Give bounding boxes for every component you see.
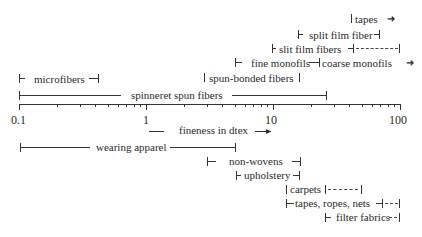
slit-end-tick [399, 44, 400, 53]
split-end-tick [379, 30, 380, 39]
axis-label-line [149, 131, 164, 132]
axis-minor-tick [80, 104, 81, 107]
upholstery-line [236, 175, 241, 176]
axis-tick-1: 1 [143, 114, 149, 126]
carpets-label: carpets [290, 183, 321, 195]
axis-minor-tick [235, 104, 236, 107]
tapes-arrow-icon: ➜ [387, 14, 395, 24]
axis-minor-tick [118, 104, 119, 107]
nonwovens-line [207, 161, 216, 162]
slit-dashed-extension [356, 48, 398, 49]
axis-minor-tick [334, 104, 335, 107]
tapesropes-label: tapes, ropes, nets [295, 197, 370, 209]
micro-end-tick [98, 74, 99, 83]
tapesropes-line [286, 203, 294, 204]
carpets-mid-tick [325, 185, 326, 194]
axis-minor-tick [311, 104, 312, 107]
micro-line-end [89, 78, 98, 79]
tapes-label: tapes [355, 13, 378, 25]
upholstery-end-tick [299, 171, 300, 180]
apparel-end-tick [235, 143, 236, 152]
fine-line-end [309, 62, 319, 63]
axis-minor-tick [19, 104, 20, 110]
axis-label: fineness in dtex [179, 124, 248, 136]
axis-minor-tick [362, 104, 363, 107]
apparel-label: wearing apparel [96, 141, 167, 153]
axis-minor-tick [222, 104, 223, 107]
apparel-line [20, 147, 90, 148]
carpets-dashed-extension [328, 189, 358, 190]
axis-minor-tick [380, 104, 381, 107]
spunbonded-end-tick [299, 73, 300, 82]
spinneret-label: spinneret spun fibers [131, 89, 223, 101]
upholstery-label: upholstery [244, 169, 290, 181]
axis-minor-tick [349, 104, 350, 107]
axis-tick-0.1: 0.1 [11, 114, 26, 126]
axis-line [19, 104, 400, 105]
axis-tick-100: 100 [389, 114, 407, 126]
tapesropes-dashed-extension [385, 203, 398, 204]
micro-label: microfibers [34, 73, 85, 85]
slit-mid-tick [353, 44, 354, 53]
axis-minor-tick [184, 104, 185, 107]
axis-arrow-icon: ▸ [266, 126, 271, 136]
axis-minor-tick [146, 104, 147, 110]
carpets-start-tick [286, 185, 287, 194]
slit-line [272, 48, 276, 49]
split-line [298, 34, 303, 35]
axis-minor-tick [95, 104, 96, 107]
axis-minor-tick [57, 104, 58, 107]
spinneret-line [19, 95, 121, 96]
filter-end-tick [399, 213, 400, 222]
nonwovens-end-tick [300, 157, 301, 166]
axis-minor-tick [388, 104, 389, 107]
axis-minor-tick [267, 104, 268, 107]
fine-line [235, 62, 242, 63]
spinneret-line-end [232, 95, 326, 96]
axis-minor-tick [126, 104, 127, 107]
axis-minor-tick [253, 104, 254, 107]
filter-label: filter fabrics [336, 211, 390, 223]
axis-minor-tick [273, 104, 274, 110]
nonwovens-line-end [292, 161, 300, 162]
fine-end-tick [319, 58, 320, 67]
tapes-start-tick [351, 14, 352, 23]
filter-dashed-extension [389, 217, 397, 218]
filter-line [325, 217, 331, 218]
axis-minor-tick [245, 104, 246, 107]
micro-line [19, 78, 25, 79]
fine-label: fine monofils [251, 57, 310, 69]
spinneret-end-tick [326, 91, 327, 100]
axis-minor-tick [394, 104, 395, 107]
spunbonded-label: spun-bonded fibers [209, 72, 294, 84]
axis-minor-tick [140, 104, 141, 107]
coarse-label: coarse monofils [322, 57, 392, 69]
axis-minor-tick [372, 104, 373, 107]
tapesropes-end-tick [399, 199, 400, 208]
coarse-arrow-icon: ➜ [406, 58, 414, 68]
axis-minor-tick [261, 104, 262, 107]
spunbonded-start-tick [204, 73, 205, 82]
carpets-end-tick [361, 185, 362, 194]
split-label: split film fiber [309, 29, 373, 41]
axis-minor-tick [108, 104, 109, 107]
axis-minor-tick [207, 104, 208, 107]
axis-minor-tick [134, 104, 135, 107]
tapesropes-mid-tick [382, 199, 383, 208]
axis-minor-tick [400, 104, 401, 110]
nonwovens-label: non-wovens [229, 155, 283, 167]
apparel-line-end [170, 147, 235, 148]
slit-label: slit film fibers [279, 43, 341, 55]
